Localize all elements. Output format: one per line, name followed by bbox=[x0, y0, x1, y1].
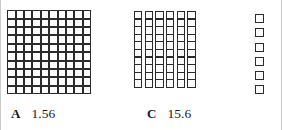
flat-unit-cell bbox=[66, 19, 74, 27]
flat-unit-cell bbox=[66, 61, 74, 69]
flat-unit-cell bbox=[32, 44, 40, 52]
flat-unit-cell bbox=[24, 10, 32, 18]
flat-unit-cell bbox=[7, 27, 15, 35]
flat-unit-cell bbox=[41, 86, 49, 94]
flat-unit-cell bbox=[66, 77, 74, 85]
flat-unit-cell bbox=[41, 69, 49, 77]
flat-unit-cell bbox=[16, 86, 24, 94]
flat-unit-cell bbox=[74, 77, 82, 85]
flat-unit-cell bbox=[7, 69, 15, 77]
rod-unit-cell bbox=[155, 79, 163, 87]
unit-cube bbox=[255, 43, 264, 52]
flat-unit-cell bbox=[83, 69, 91, 77]
flat-unit-cell bbox=[41, 27, 49, 35]
flat-unit-cell bbox=[32, 61, 40, 69]
flat-unit-cell bbox=[49, 61, 57, 69]
flat-unit-cell bbox=[32, 10, 40, 18]
flat-unit-cell bbox=[58, 10, 66, 18]
flat-unit-cell bbox=[58, 52, 66, 60]
answer-letter-a: A bbox=[11, 106, 21, 122]
flat-unit-cell bbox=[41, 10, 49, 18]
flat-unit-cell bbox=[16, 27, 24, 35]
flat-unit-cell bbox=[58, 35, 66, 43]
flat-unit-cell bbox=[58, 86, 66, 94]
hundred-flat-block bbox=[8, 11, 92, 95]
flat-unit-cell bbox=[32, 27, 40, 35]
rod-unit-cell bbox=[187, 79, 195, 87]
flat-unit-cell bbox=[66, 69, 74, 77]
flat-unit-cell bbox=[83, 19, 91, 27]
flat-unit-cell bbox=[74, 27, 82, 35]
rod-unit-cell bbox=[145, 79, 153, 87]
flat-unit-cell bbox=[49, 19, 57, 27]
flat-unit-cell bbox=[41, 44, 49, 52]
flat-unit-cell bbox=[83, 10, 91, 18]
flat-unit-cell bbox=[58, 61, 66, 69]
base-ten-block-figure: A 1.56 C 15.6 bbox=[0, 0, 282, 130]
unit-cube bbox=[255, 85, 264, 94]
flat-unit-cell bbox=[24, 52, 32, 60]
flat-unit-cell bbox=[7, 35, 15, 43]
flat-unit-cell bbox=[74, 44, 82, 52]
ten-rod bbox=[155, 11, 163, 88]
flat-unit-cell bbox=[49, 69, 57, 77]
flat-unit-cell bbox=[7, 44, 15, 52]
answer-value-c: 15.6 bbox=[168, 106, 192, 122]
flat-unit-cell bbox=[16, 61, 24, 69]
flat-unit-cell bbox=[16, 10, 24, 18]
flat-unit-cell bbox=[24, 27, 32, 35]
ten-rod bbox=[145, 11, 153, 88]
flat-unit-cell bbox=[41, 35, 49, 43]
flat-unit-cell bbox=[49, 35, 57, 43]
flat-unit-cell bbox=[16, 52, 24, 60]
flat-unit-cell bbox=[32, 19, 40, 27]
flat-unit-cell bbox=[83, 52, 91, 60]
rod-unit-cell bbox=[166, 79, 174, 87]
flat-unit-cell bbox=[41, 61, 49, 69]
flat-unit-cell bbox=[49, 44, 57, 52]
flat-unit-cell bbox=[49, 10, 57, 18]
flat-unit-cell bbox=[7, 77, 15, 85]
flat-unit-cell bbox=[58, 77, 66, 85]
flat-unit-cell bbox=[74, 86, 82, 94]
flat-unit-cell bbox=[58, 27, 66, 35]
flat-unit-cell bbox=[74, 52, 82, 60]
flat-unit-cell bbox=[41, 19, 49, 27]
answer-letter-c: C bbox=[147, 106, 157, 122]
flat-unit-cell bbox=[32, 35, 40, 43]
flat-unit-cell bbox=[83, 86, 91, 94]
rod-unit-cell bbox=[134, 79, 142, 87]
flat-unit-cell bbox=[83, 61, 91, 69]
ten-rod bbox=[177, 11, 185, 88]
flat-unit-cell bbox=[7, 52, 15, 60]
flat-unit-cell bbox=[66, 35, 74, 43]
rod-unit-cell bbox=[177, 79, 185, 87]
ten-rod bbox=[187, 11, 195, 88]
flat-unit-cell bbox=[83, 77, 91, 85]
unit-cube bbox=[255, 71, 264, 80]
flat-unit-cell bbox=[32, 69, 40, 77]
ten-rod bbox=[134, 11, 142, 88]
flat-unit-cell bbox=[7, 61, 15, 69]
flat-unit-cell bbox=[32, 86, 40, 94]
flat-unit-cell bbox=[83, 27, 91, 35]
unit-cubes-group bbox=[255, 14, 264, 94]
flat-unit-cell bbox=[24, 77, 32, 85]
answer-choice-a[interactable]: A 1.56 bbox=[11, 106, 55, 122]
flat-unit-cell bbox=[58, 44, 66, 52]
flat-unit-cell bbox=[41, 77, 49, 85]
flat-unit-cell bbox=[83, 44, 91, 52]
flat-unit-cell bbox=[24, 61, 32, 69]
flat-unit-cell bbox=[58, 19, 66, 27]
flat-unit-cell bbox=[49, 86, 57, 94]
answer-choice-c[interactable]: C 15.6 bbox=[147, 106, 191, 122]
flat-unit-cell bbox=[7, 10, 15, 18]
flat-unit-cell bbox=[66, 27, 74, 35]
flat-unit-cell bbox=[66, 10, 74, 18]
flat-unit-cell bbox=[49, 77, 57, 85]
unit-cube bbox=[255, 14, 264, 23]
ten-rod bbox=[166, 11, 174, 88]
flat-unit-cell bbox=[66, 86, 74, 94]
flat-unit-cell bbox=[49, 27, 57, 35]
answer-value-a: 1.56 bbox=[32, 106, 56, 122]
